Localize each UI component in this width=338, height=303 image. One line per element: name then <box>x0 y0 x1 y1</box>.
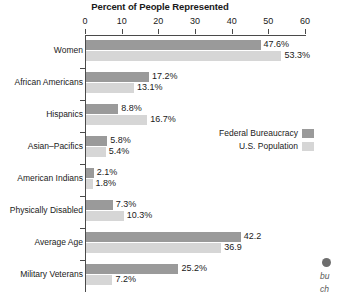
bar-value-label: 25.2% <box>181 263 207 273</box>
bar <box>86 264 178 274</box>
bar-group: Women47.6%53.3% <box>86 36 338 68</box>
category-label: American Indians <box>0 173 83 183</box>
legend-label: Federal Bureaucracy <box>219 128 298 138</box>
y-tick-mark <box>80 100 85 101</box>
bar-value-label: 42.2 <box>244 231 262 241</box>
bar <box>86 211 124 221</box>
chart-title: Percent of People Represented <box>0 1 320 12</box>
bar-group: American Indians2.1%1.8% <box>86 164 338 196</box>
bar-value-label: 17.2% <box>152 71 178 81</box>
bar <box>86 232 241 242</box>
bar <box>86 243 221 253</box>
x-tick-label: 30 <box>190 16 200 26</box>
x-tick-mark <box>268 29 269 34</box>
margin-note-line-1: bu <box>320 271 329 281</box>
category-label: Military Veterans <box>0 269 83 279</box>
bar <box>86 275 112 285</box>
legend-item: U.S. Population <box>196 141 314 152</box>
y-tick-mark <box>80 260 85 261</box>
bar-value-label: 10.3% <box>127 210 153 220</box>
chart-legend: Federal BureaucracyU.S. Population <box>196 128 314 154</box>
x-tick-label: 10 <box>117 16 127 26</box>
bar-value-label: 1.8% <box>96 178 117 188</box>
y-tick-mark <box>80 164 85 165</box>
bar <box>86 200 113 210</box>
bar-value-label: 2.1% <box>97 167 118 177</box>
bar-group: Military Veterans25.2%7.2% <box>86 260 338 292</box>
bar-value-label: 13.1% <box>137 82 163 92</box>
bar <box>86 168 94 178</box>
x-tick-mark <box>85 29 86 34</box>
plot-area: Women47.6%53.3%African Americans17.2%13.… <box>86 36 338 292</box>
category-label: Physically Disabled <box>0 205 83 215</box>
bar-value-label: 36.9 <box>224 242 242 252</box>
category-label: Women <box>0 45 83 55</box>
bar <box>86 147 106 157</box>
bar-value-label: 7.2% <box>115 274 136 284</box>
x-tick-label: 0 <box>82 16 87 26</box>
x-tick-label: 20 <box>153 16 163 26</box>
bar <box>86 83 134 93</box>
bar-value-label: 8.8% <box>121 103 142 113</box>
bar-group: African Americans17.2%13.1% <box>86 68 338 100</box>
y-tick-mark <box>80 196 85 197</box>
x-tick-label: 40 <box>227 16 237 26</box>
y-tick-mark <box>80 68 85 69</box>
category-label: African Americans <box>0 77 83 87</box>
bar-group: Physically Disabled7.3%10.3% <box>86 196 338 228</box>
y-tick-mark <box>80 228 85 229</box>
legend-swatch <box>302 129 314 138</box>
category-label: Asian–Pacifics <box>0 141 83 151</box>
x-tick-label: 60 <box>300 16 310 26</box>
x-tick-mark <box>195 29 196 34</box>
x-tick-mark <box>158 29 159 34</box>
margin-note-line-2: ch <box>320 284 329 294</box>
x-tick-label: 50 <box>263 16 273 26</box>
bar <box>86 72 149 82</box>
category-label: Average Age <box>0 237 83 247</box>
bar-group: Average Age42.236.9 <box>86 228 338 260</box>
bar-value-label: 7.3% <box>116 199 137 209</box>
bar <box>86 179 93 189</box>
x-tick-mark <box>305 29 306 34</box>
margin-note: bu ch <box>320 258 338 303</box>
bar-value-label: 47.6% <box>264 39 290 49</box>
bar-value-label: 53.3% <box>284 50 310 60</box>
bar-value-label: 5.4% <box>109 146 130 156</box>
bar <box>86 40 261 50</box>
legend-item: Federal Bureaucracy <box>196 128 314 139</box>
bar <box>86 115 147 125</box>
category-label: Hispanics <box>0 109 83 119</box>
legend-swatch <box>302 142 314 151</box>
bar-value-label: 16.7% <box>150 114 176 124</box>
x-tick-mark <box>122 29 123 34</box>
bar <box>86 136 107 146</box>
bar-value-label: 5.8% <box>110 135 131 145</box>
bar <box>86 51 281 61</box>
legend-label: U.S. Population <box>239 141 298 151</box>
x-axis: 0102030405060 <box>85 16 305 36</box>
x-tick-mark <box>232 29 233 34</box>
y-tick-mark <box>80 132 85 133</box>
bar-chart: Percent of People Represented 0102030405… <box>0 0 338 303</box>
bullet-icon <box>322 258 331 267</box>
bar <box>86 104 118 114</box>
